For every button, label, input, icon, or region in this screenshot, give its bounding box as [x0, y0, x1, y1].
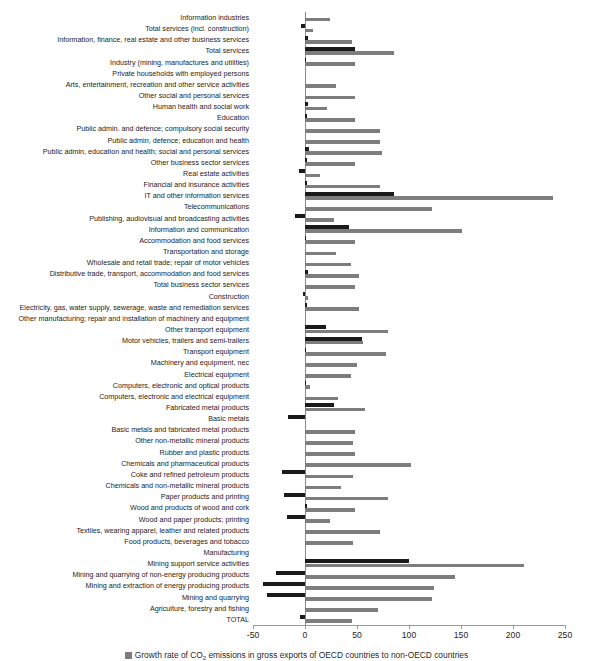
bar-row: Total business sector services	[253, 279, 565, 290]
category-label: Machinery and equipment, nec	[151, 359, 249, 366]
category-label: Total services (incl. construction)	[145, 25, 249, 32]
bar-series-2	[287, 515, 305, 519]
bar-row: Electrical equipment	[253, 369, 565, 380]
bar-row: Total services	[253, 45, 565, 56]
bar-row: Agriculture, forestry and fishing	[253, 603, 565, 614]
bar-series-1	[305, 497, 388, 501]
category-label: Basic metals and fabricated metal produc…	[112, 426, 249, 433]
category-label: Computers, electronic and optical produc…	[113, 382, 249, 389]
bar-series-1	[305, 597, 432, 601]
x-tick-label: 250	[545, 630, 585, 640]
bar-rows: Information industriesTotal services (in…	[253, 12, 565, 625]
category-label: Publishing, audiovisual and broadcasting…	[89, 215, 249, 222]
category-label: Education	[217, 114, 249, 121]
bar-series-1	[305, 240, 355, 244]
bar-row: Information industries	[253, 12, 565, 23]
bar-series-1	[305, 564, 524, 568]
bar-series-1	[305, 608, 378, 612]
category-label: Chemicals and non-metallic mineral produ…	[106, 482, 249, 489]
bar-row: Paper products and printing	[253, 491, 565, 502]
bar-row: Transport equipment	[253, 346, 565, 357]
x-tick	[409, 625, 410, 629]
bar-row: Education	[253, 112, 565, 123]
bar-row: Rubber and plastic products	[253, 447, 565, 458]
category-label: Real estate activities	[183, 170, 249, 177]
category-label: Private households with employed persons	[112, 70, 249, 77]
category-label: IT and other information services	[144, 192, 249, 199]
bar-series-1	[305, 207, 432, 211]
category-label: Information and communication	[149, 226, 249, 233]
chart-legend: Growth rate of CO2 emissions in gross ex…	[0, 650, 593, 661]
x-tick-label: -50	[233, 630, 273, 640]
x-tick-label: 100	[389, 630, 429, 640]
bar-series-1	[305, 541, 353, 545]
legend-entry-0: Growth rate of CO2 emissions in gross ex…	[125, 650, 468, 660]
bar-row: Publishing, audiovisual and broadcasting…	[253, 213, 565, 224]
bar-series-1	[305, 530, 380, 534]
bar-row: Arts, entertainment, recreation and othe…	[253, 79, 565, 90]
bar-row: Human health and social work	[253, 101, 565, 112]
category-label: Information, finance, real estate and ot…	[57, 36, 249, 43]
category-label: Textiles, wearing apparel, leather and r…	[76, 527, 249, 534]
bar-series-1	[305, 196, 553, 200]
plot-area: Information industriesTotal services (in…	[253, 12, 565, 625]
bar-series-1	[305, 486, 341, 490]
bar-series-2	[284, 493, 305, 497]
bar-series-1	[305, 274, 359, 278]
category-label: Industry (mining, manufactures and utili…	[110, 59, 249, 66]
bar-row: Mining and quarrying	[253, 592, 565, 603]
x-tick	[305, 625, 306, 629]
bar-row: Public admin. and defence; compulsory so…	[253, 123, 565, 134]
bar-series-1	[305, 330, 388, 334]
bar-series-1	[305, 619, 352, 623]
bar-series-2	[276, 571, 305, 575]
bar-series-1	[305, 441, 353, 445]
bar-series-1	[305, 575, 455, 579]
category-label: Electrical equipment	[184, 371, 249, 378]
category-label: Manufacturing	[203, 549, 249, 556]
category-label: Coke and refined petroleum products	[131, 471, 249, 478]
bar-series-1	[305, 29, 313, 33]
legend-label-0: Growth rate of CO2 emissions in gross ex…	[135, 650, 468, 660]
x-tick	[565, 625, 566, 629]
bar-row: Basic metals and fabricated metal produc…	[253, 424, 565, 435]
bar-row: Other social and personal services	[253, 90, 565, 101]
bar-row: Textiles, wearing apparel, leather and r…	[253, 525, 565, 536]
bar-row: Wood and paper products; printing	[253, 514, 565, 525]
category-label: Transportation and storage	[163, 248, 249, 255]
bar-row: Accommodation and food services	[253, 235, 565, 246]
bar-row: Information and communication	[253, 224, 565, 235]
bar-row: Wholesale and retail trade; repair of mo…	[253, 257, 565, 268]
bar-series-1	[305, 374, 351, 378]
bar-row: Coke and refined petroleum products	[253, 469, 565, 480]
category-label: Public admin, education and health; soci…	[43, 148, 249, 155]
bar-series-1	[305, 519, 330, 523]
bar-series-1	[305, 352, 386, 356]
category-label: Public admin, defence; education and hea…	[108, 137, 249, 144]
bar-series-1	[305, 263, 351, 267]
bar-series-2	[263, 582, 305, 586]
bar-series-1	[305, 229, 462, 233]
bar-chart: Information industriesTotal services (in…	[0, 0, 593, 661]
category-label: Wood and paper products; printing	[139, 516, 249, 523]
category-label: Other non-metallic mineral products	[135, 437, 249, 444]
legend-swatch-light	[125, 652, 132, 659]
category-label: Food products, beverages and tobacco	[124, 538, 249, 545]
category-label: Basic metals	[208, 415, 249, 422]
bar-row: Public admin, education and health; soci…	[253, 146, 565, 157]
bar-row: Manufacturing	[253, 547, 565, 558]
bar-series-1	[305, 475, 353, 479]
bar-series-1	[305, 96, 355, 100]
category-label: Mining and quarrying of non-energy produ…	[72, 571, 249, 578]
bar-row: Other non-metallic mineral products	[253, 436, 565, 447]
bar-row: Chemicals and pharmaceutical products	[253, 458, 565, 469]
bar-row: Private households with employed persons	[253, 68, 565, 79]
category-label: Other business sector services	[151, 159, 249, 166]
bar-row: Mining support service activities	[253, 558, 565, 569]
bar-row: Computers, electronic and electrical equ…	[253, 391, 565, 402]
bar-series-2	[288, 415, 305, 419]
bar-row: Mining and extraction of energy producin…	[253, 580, 565, 591]
bar-series-1	[305, 252, 336, 256]
bar-row: Wood and products of wood and cork	[253, 502, 565, 513]
bar-row: Machinery and equipment, nec	[253, 358, 565, 369]
